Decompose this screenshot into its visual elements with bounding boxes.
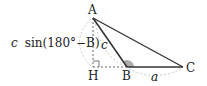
height-expression: c sin(180°−B) [11,33,100,50]
height-expr: sin(180°−B) [25,36,100,50]
point-B-label: B [122,69,131,83]
triangle-diagram: A H B C c a c sin(180°−B) [0,0,207,86]
point-H-label: H [88,69,98,83]
point-A-label: A [87,3,97,17]
height-prefix: c [11,36,18,50]
point-C-label: C [186,61,195,75]
side-c-label: c [101,38,108,52]
side-a-label: a [151,70,158,84]
right-angle-marker [93,61,99,67]
